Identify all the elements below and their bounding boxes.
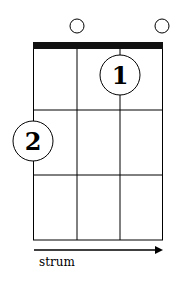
chord-diagram: 1 2 strum — [0, 0, 181, 281]
nut — [33, 42, 163, 49]
strum-label: strum — [39, 255, 75, 269]
strum-arrow-icon — [34, 246, 163, 254]
open-string-marker — [70, 19, 84, 33]
finger-1-label: 1 — [112, 61, 129, 90]
frets — [33, 110, 163, 240]
finger-2-marker: 2 — [13, 121, 53, 161]
finger-2-label: 2 — [25, 127, 42, 156]
open-string-marker — [155, 19, 169, 33]
finger-1-marker: 1 — [100, 55, 140, 95]
